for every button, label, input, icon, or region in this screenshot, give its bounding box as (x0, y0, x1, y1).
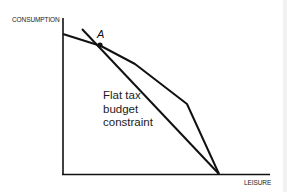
point-a-label: A (97, 29, 104, 40)
x-axis-label: LEISURE (244, 180, 271, 187)
y-axis-label: CONSUMPTION (12, 17, 60, 24)
annotation-line-2: budget (103, 103, 153, 117)
page-edge-border (283, 0, 287, 192)
flat-tax-annotation: Flat tax budget constraint (103, 89, 153, 130)
budget-constraint-diagram: CONSUMPTION LEISURE A Flat tax budget co… (0, 0, 287, 192)
annotation-line-3: constraint (103, 116, 153, 130)
point-a-marker (97, 42, 102, 47)
annotation-line-1: Flat tax (103, 89, 153, 103)
